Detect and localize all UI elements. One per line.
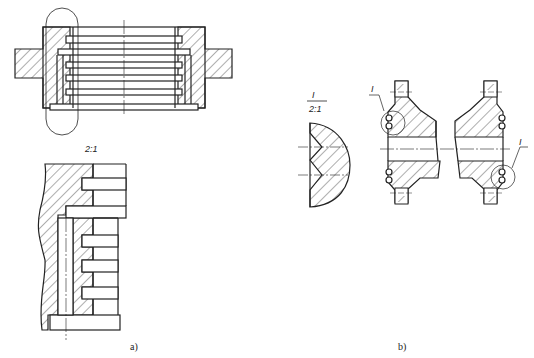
callout-left: I	[371, 84, 374, 94]
technical-drawing: 2:1 a) I 2:1	[0, 0, 534, 358]
leader-left	[369, 95, 384, 111]
figure-b-flange-left	[381, 81, 440, 204]
figure-b-detail-section	[298, 123, 350, 207]
scale-label-a: 2:1	[84, 144, 98, 154]
leader-right	[512, 147, 528, 168]
callout-right: I	[519, 137, 522, 147]
caption-b: b)	[398, 341, 406, 353]
figure-a-detail	[38, 164, 126, 340]
caption-a: a)	[130, 341, 138, 353]
figure-b-flange-right	[455, 81, 515, 204]
detail-scale-b: 2:1	[308, 104, 322, 114]
detail-label-b: I	[312, 90, 315, 100]
figure-a-assembly	[15, 8, 232, 135]
